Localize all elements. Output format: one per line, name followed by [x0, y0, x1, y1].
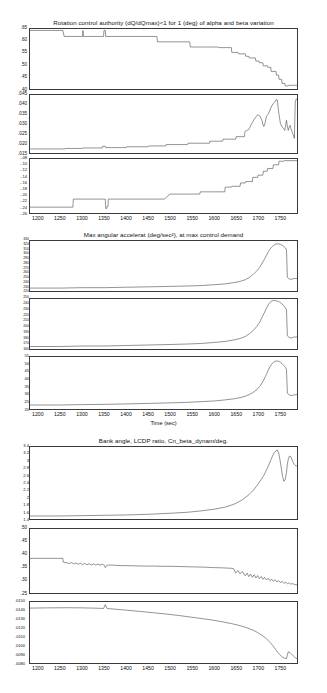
y-tick-label: -.20	[20, 193, 27, 197]
yticks-phi-deg: 3.43.232.82.62.42.221.81.61.4	[3, 444, 29, 522]
y-tick-label: .40	[21, 552, 27, 557]
y-tick-label: 240	[23, 302, 29, 306]
x-tick-label: 1700	[253, 411, 265, 417]
panel-lcdp: .50.45.40.35.30.25 LCDP	[29, 528, 298, 594]
y-tick-label: -.08	[20, 156, 27, 160]
x-tick-label: 1400	[120, 411, 132, 417]
plot-yaw-effort	[29, 158, 298, 214]
y-tick-label: .0090	[15, 653, 25, 657]
y-tick-label: -.26	[20, 211, 27, 215]
y-tick-label: 190	[23, 330, 29, 334]
y-tick-label: .35	[21, 565, 27, 570]
y-tick-label: .0130	[15, 617, 25, 621]
y-tick-label: 220	[23, 313, 29, 317]
x-tick-label: 1400	[120, 215, 132, 221]
y-tick-label: 1.6	[23, 510, 29, 514]
x-tick-label: 1250	[54, 411, 66, 417]
panel-cnbeta-dyn: .0150.0140.0130.0120.0110.0100.0090.0080…	[29, 601, 298, 664]
plot-q-dot-max	[29, 298, 298, 350]
x-tick-label: 1200	[32, 411, 44, 417]
plot-cnbeta-dyn	[29, 601, 298, 664]
x-tick-label: 1450	[142, 665, 154, 671]
x-tick-label: 1200	[32, 665, 44, 671]
y-tick-label: .0120	[15, 626, 25, 630]
panel-pitch-effort: .045.040.035.030.025.020.015 Pitch effor…	[29, 94, 298, 154]
panel-q-dot-max: 250240230220210200190180170160 Q dot (Ma…	[29, 298, 298, 350]
y-tick-label: 2.2	[23, 488, 29, 492]
x-tick-label: 1450	[142, 411, 154, 417]
x-tick-label: 1500	[164, 215, 176, 221]
y-tick-label: 55	[24, 354, 29, 358]
xaxis-label-group-2: Time (sec)	[29, 420, 298, 426]
group-title-control-authority: Rotation control authority (dQ/dQmax)<1 …	[0, 19, 327, 26]
y-tick-label: .55	[21, 50, 27, 55]
x-tick-label: 1300	[76, 215, 88, 221]
x-tick-label: 1350	[98, 215, 110, 221]
x-tick-label: 1750	[275, 411, 287, 417]
xaxis-group-1: 1200125013001350140014501500155016001650…	[29, 215, 298, 225]
x-tick-label: 1500	[164, 411, 176, 417]
phi-deg-series-svg	[30, 447, 297, 519]
panel-yaw-effort: -.08-.10-.12-.14-.16-.18-.20-.22-.24-.26…	[29, 158, 298, 214]
panel-r-dot-max: 5550454035302520 R dot (Max) 12001250130…	[29, 356, 298, 410]
x-tick-label: 1750	[275, 665, 287, 671]
y-tick-label: .25	[21, 591, 27, 596]
x-tick-label: 1650	[230, 665, 242, 671]
x-tick-label: 1300	[76, 665, 88, 671]
x-tick-label: 1600	[208, 411, 220, 417]
yticks-roll-effort: .65.60.55.50.45.40	[1, 26, 27, 93]
plot-pitch-effort	[29, 94, 298, 154]
lcdp-series-svg	[30, 529, 297, 593]
y-tick-label: .025	[18, 131, 27, 136]
y-tick-label: 160	[23, 348, 29, 352]
group-title-max-angular-accel: Max angular accelerat (deg/sec²), at max…	[0, 231, 327, 238]
y-tick-label: .65	[21, 25, 27, 30]
x-tick-label: 1650	[230, 411, 242, 417]
panel-phi-deg: 3.43.232.82.62.42.221.81.61.4 phi (deg)	[29, 446, 298, 520]
x-tick-label: 1650	[230, 215, 242, 221]
r-dot-max-series-svg	[30, 357, 297, 409]
yticks-p-dot-max: 330320310300290280270260250240230220	[3, 238, 29, 294]
y-tick-label: .60	[21, 38, 27, 43]
x-tick-label: 1450	[142, 215, 154, 221]
y-tick-label: 220	[23, 290, 29, 294]
y-tick-label: 3	[27, 458, 29, 462]
y-tick-label: 3.2	[23, 451, 29, 455]
y-tick-label: 180	[23, 336, 29, 340]
y-tick-label: 40	[24, 377, 29, 381]
yaw-effort-series-svg	[30, 159, 297, 213]
y-tick-label: .50	[21, 525, 27, 530]
y-tick-label: 170	[23, 342, 29, 346]
yticks-lcdp: .50.45.40.35.30.25	[1, 526, 27, 597]
y-tick-label: 2	[27, 495, 29, 499]
yticks-cnbeta-dyn: .0150.0140.0130.0120.0110.0100.0090.0080	[0, 599, 25, 666]
y-tick-label: .0100	[15, 644, 25, 648]
y-tick-label: 3.4	[23, 444, 29, 448]
x-tick-label: 1600	[208, 215, 220, 221]
y-tick-label: 1.8	[23, 503, 29, 507]
cnbeta-dyn-series-svg	[30, 602, 297, 663]
y-tick-label: 200	[23, 325, 29, 329]
y-tick-label: .30	[21, 578, 27, 583]
y-tick-label: 210	[23, 319, 29, 323]
yticks-q-dot-max: 250240230220210200190180170160	[3, 296, 29, 352]
plot-p-dot-max	[29, 240, 298, 292]
y-tick-label: .0080	[15, 661, 25, 665]
plot-phi-deg	[29, 446, 298, 520]
x-tick-label: 1700	[253, 665, 265, 671]
y-tick-label: .0150	[15, 599, 25, 603]
x-tick-label: 1550	[186, 215, 198, 221]
x-tick-label: 1550	[186, 665, 198, 671]
y-tick-label: -.16	[20, 180, 27, 184]
y-tick-label: 230	[23, 307, 29, 311]
y-tick-label: 50	[24, 361, 29, 365]
y-tick-label: .020	[18, 141, 27, 146]
x-tick-label: 1200	[32, 215, 44, 221]
x-tick-label: 1700	[253, 215, 265, 221]
yticks-r-dot-max: 5550454035302520	[3, 354, 29, 412]
x-tick-label: 1500	[164, 665, 176, 671]
plot-roll-effort	[29, 28, 298, 90]
x-tick-label: 1350	[98, 665, 110, 671]
yticks-yaw-effort: -.08-.10-.12-.14-.16-.18-.20-.22-.24-.26	[1, 156, 27, 216]
y-tick-label: .035	[18, 111, 27, 116]
